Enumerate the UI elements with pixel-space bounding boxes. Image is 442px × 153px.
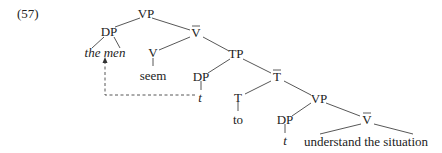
node-the-men: the men: [85, 45, 126, 60]
edge-vbar2-left: [320, 124, 361, 134]
node-dp-trace-1: DP: [193, 69, 210, 84]
node-trace-1: t: [198, 90, 202, 105]
node-understand-the-situation: understand the situation: [304, 134, 429, 149]
node-t-head: T: [234, 90, 242, 105]
node-dp-trace-2: DP: [277, 112, 294, 127]
edge-vp-vbar2: [326, 103, 360, 116]
edge-vbar2-right: [374, 124, 413, 134]
edge-vp-vbar: [152, 18, 190, 30]
node-trace-2: t: [283, 133, 287, 148]
node-vbar-2: V: [362, 112, 372, 127]
edge-tbar-t: [245, 81, 271, 94]
node-vp-lower: VP: [311, 91, 328, 106]
edge-tbar-vp: [284, 81, 311, 95]
edge-tp-dp: [208, 59, 230, 73]
node-tbar: T: [273, 69, 281, 84]
edge-vp-dp: [115, 18, 140, 27]
syntax-tree: (57) VP DP the men V V seem TP DP t T T …: [0, 0, 442, 153]
node-vp-root: VP: [138, 6, 155, 21]
node-seem: seem: [140, 68, 167, 83]
node-vbar-1: V: [191, 25, 201, 40]
node-dp-subject: DP: [101, 24, 118, 39]
edge-vbar-tp: [203, 37, 229, 51]
edge-vbar-v: [159, 37, 190, 50]
edge-tp-tbar: [243, 59, 271, 73]
node-to: to: [233, 112, 243, 127]
node-tp: TP: [228, 46, 243, 61]
node-v-seem: V: [148, 45, 158, 60]
edge-vp-dp2: [292, 103, 311, 116]
example-number: (57): [17, 6, 39, 21]
